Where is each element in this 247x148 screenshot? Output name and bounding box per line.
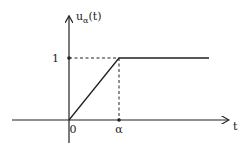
y-tick-dot-1 [67,56,71,60]
x-axis-label: t [233,120,238,133]
x-tick-dot-alpha [117,118,121,122]
series-line-u_alpha [69,58,209,120]
y-axis-label: uα(t) [76,10,102,25]
x-tick-label-0: 0 [70,123,77,136]
chart: uα(t) t 0α1 [0,0,247,148]
y-tick-label-0: 1 [52,52,59,65]
x-tick-label-1: α [115,123,123,136]
